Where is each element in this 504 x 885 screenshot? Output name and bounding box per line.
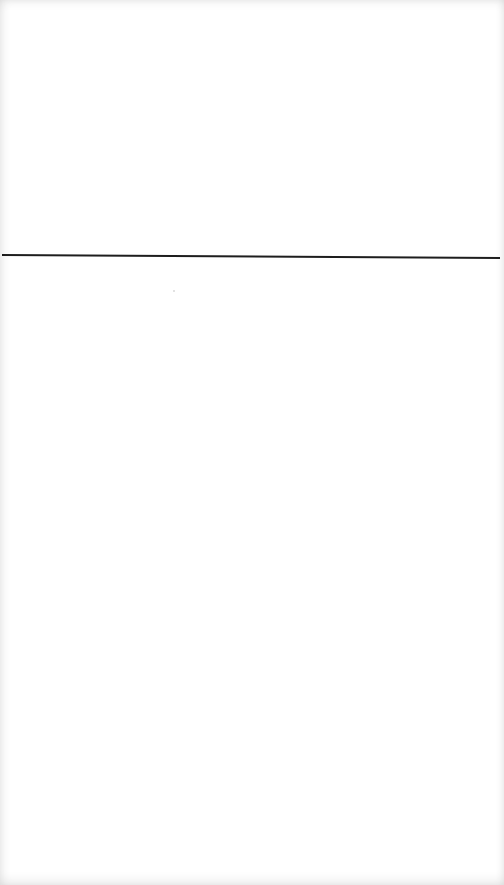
paper-speck [173, 290, 175, 292]
document-page [0, 0, 504, 885]
horizontal-rule [2, 254, 500, 259]
scan-vignette [0, 0, 504, 885]
